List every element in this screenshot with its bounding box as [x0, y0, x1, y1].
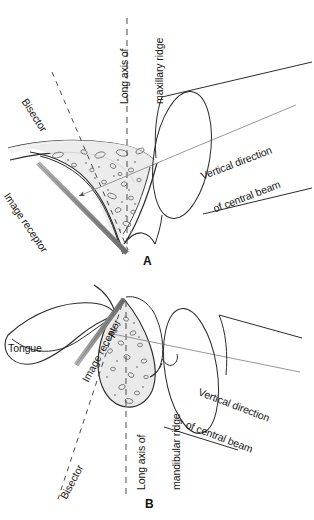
label-tongue-text: Tongue: [8, 343, 42, 355]
label-bisector-mandibular-text: Bisector: [58, 463, 86, 501]
label-tongue: Tongue: [8, 320, 42, 378]
label-bisector-maxillary-text: Bisector: [19, 97, 49, 134]
label-image-receptor-mandibular-text: Image receptor: [80, 318, 123, 385]
panel-a-maxillary: Long axis of maxillary ridge Bisector Im…: [0, 0, 314, 275]
label-long-axis-maxillary-line1: Long axis of: [119, 38, 131, 104]
panel-letter-a: A: [143, 254, 152, 268]
label-long-axis-maxillary-line2: maxillary ridge: [154, 38, 166, 104]
dental-radiography-figure: Long axis of maxillary ridge Bisector Im…: [0, 0, 314, 520]
label-central-beam-mandibular-line2: of central beam: [184, 419, 258, 457]
label-central-beam-mandibular-line1: Vertical direction: [197, 386, 271, 424]
label-long-axis-maxillary: Long axis of maxillary ridge: [96, 38, 188, 104]
label-central-beam-maxillary-line2: of central beam: [212, 177, 286, 215]
label-central-beam-maxillary-line1: Vertical direction: [199, 145, 273, 183]
ridge-notch-outline: [155, 215, 162, 244]
panel-letter-b: B: [145, 497, 154, 511]
label-long-axis-mandibular-line1: Long axis of: [136, 413, 148, 490]
label-image-receptor-maxillary-text: Image receptor: [1, 191, 49, 255]
